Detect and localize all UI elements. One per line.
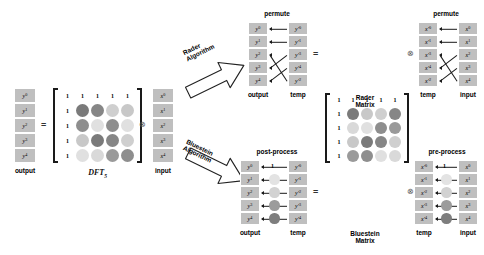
rader-permute-wire-right xyxy=(440,42,457,43)
matrix-disk xyxy=(361,108,374,121)
matrix-cell: 1 xyxy=(60,118,75,133)
matrix-disk xyxy=(91,104,105,118)
vector-cell: y'4 xyxy=(288,61,308,74)
vector-cell: y'0 xyxy=(288,22,308,35)
vector-cell: y'2 xyxy=(288,74,308,87)
bluestein-post-disk xyxy=(269,187,279,197)
rader-permute-left-header: permute xyxy=(246,10,308,17)
matrix-cell xyxy=(374,121,388,135)
matrix-disk xyxy=(76,134,90,148)
matrix-cell xyxy=(360,149,374,163)
matrix-disk xyxy=(106,119,120,133)
bluestein-pre-header: pre-process xyxy=(408,148,484,155)
vector-cell: x'3 xyxy=(418,48,438,61)
bluestein-temp-in-vector: x'0x'1x'2x'3x'4 xyxy=(414,160,434,225)
matrix-cell: 1 xyxy=(332,135,346,149)
matrix-cell xyxy=(120,118,135,133)
vector-cell: x3 xyxy=(152,133,174,148)
figure-canvas: y0y1y2y3y4output=111111111DFT5⊗x0x1x2x3x… xyxy=(0,0,484,255)
vector-cell: x'2 xyxy=(418,74,438,87)
matrix-cell xyxy=(75,103,90,118)
bluestein-pre-disk xyxy=(441,213,451,223)
base-input-vector: x0x1x2x3x4 xyxy=(152,88,174,163)
matrix-cell: 1 xyxy=(332,107,346,121)
rader-permute-wire xyxy=(270,42,287,43)
bluestein-equals-sign: = xyxy=(313,187,318,197)
matrix-disk xyxy=(76,119,90,133)
rader-output-label: output xyxy=(242,91,274,98)
matrix-cell xyxy=(388,149,402,163)
bluestein-post-disk xyxy=(269,174,279,184)
rader-temp-right-label: temp xyxy=(412,91,444,98)
vector-cell: y'0 xyxy=(288,160,308,173)
vector-cell: x2 xyxy=(152,118,174,133)
matrix-disk xyxy=(121,149,135,163)
vector-cell: y3 xyxy=(14,133,36,148)
rader-permute-wire-right-head xyxy=(439,40,442,44)
matrix-disk xyxy=(361,122,374,135)
vector-cell: x0 xyxy=(152,88,174,103)
matrix-one: 1 xyxy=(126,93,129,99)
matrix-cell: 1 xyxy=(120,88,135,103)
rader-permute-wire xyxy=(270,29,287,30)
vector-cell: x1 xyxy=(152,103,174,118)
bluestein-pre-wire-head xyxy=(435,178,438,182)
matrix-cell xyxy=(360,121,374,135)
vector-cell: y1 xyxy=(240,173,260,186)
rader-permute-wire-right xyxy=(440,55,458,81)
vector-cell: x'1 xyxy=(414,173,434,186)
matrix-cell xyxy=(346,149,360,163)
matrix-cell xyxy=(90,148,105,163)
bluestein-input-vector: x0x1x2x3x4 xyxy=(458,160,478,225)
rader-times-sign: ⊗ xyxy=(407,49,414,58)
rader-permute-wire-head xyxy=(269,66,272,70)
matrix-cell: 1 xyxy=(75,88,90,103)
rader-temp-left-label: temp xyxy=(282,91,314,98)
matrix-cell xyxy=(388,107,402,121)
vector-cell: y'4 xyxy=(288,212,308,225)
matrix-disk xyxy=(347,108,360,121)
matrix-cell xyxy=(374,107,388,121)
vector-cell: x3 xyxy=(458,61,478,74)
matrix-cell xyxy=(90,118,105,133)
matrix-cell xyxy=(75,133,90,148)
dft5-matrix: 111111111 xyxy=(53,88,142,163)
bluestein-temp-right-label: temp xyxy=(408,229,440,236)
matrix-cell: 1 xyxy=(332,121,346,135)
matrix-one: 1 xyxy=(66,108,69,114)
rader-permute-wire-head xyxy=(269,79,272,83)
matrix-disk xyxy=(347,136,360,149)
rader-permute-wire xyxy=(270,55,287,69)
vector-cell: x1 xyxy=(458,173,478,186)
vector-cell: y'2 xyxy=(288,186,308,199)
bluestein-output-vector: y0y1y2y3y4 xyxy=(240,160,260,225)
matrix-cell xyxy=(360,107,374,121)
matrix-cell: 1 xyxy=(60,133,75,148)
vector-cell: y4 xyxy=(14,148,36,163)
matrix-one: 1 xyxy=(338,111,341,117)
matrix-disk xyxy=(76,104,90,118)
vector-cell: x4 xyxy=(458,74,478,87)
matrix-disk xyxy=(347,122,360,135)
bluestein-pre-wire-head xyxy=(435,204,438,208)
matrix-disk xyxy=(121,104,135,118)
base-input-label: input xyxy=(146,167,180,174)
bluestein-matrix-label: BluesteinMatrix xyxy=(320,230,410,245)
matrix-cell xyxy=(120,148,135,163)
matrix-cell: 1 xyxy=(105,88,120,103)
bluestein-post-disk xyxy=(269,200,279,210)
rader-input-label: input xyxy=(452,91,484,98)
matrix-disk xyxy=(361,136,374,149)
bluestein-pre-unit: 1 xyxy=(443,163,446,169)
vector-cell: x'0 xyxy=(418,22,438,35)
matrix-cell xyxy=(388,121,402,135)
rader-permute-right-header: permute xyxy=(415,10,477,17)
matrix-cell xyxy=(374,149,388,163)
vector-cell: y'3 xyxy=(288,48,308,61)
vector-cell: y3 xyxy=(248,61,268,74)
vector-cell: x'4 xyxy=(414,212,434,225)
matrix-cell xyxy=(105,118,120,133)
vector-cell: x3 xyxy=(458,199,478,212)
matrix-cell xyxy=(346,121,360,135)
bluestein-post-header: post-process xyxy=(238,148,316,155)
